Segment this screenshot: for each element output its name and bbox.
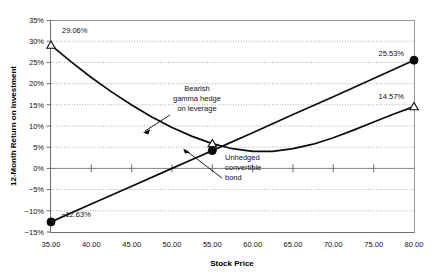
y-axis-title: 12-Month Return on Investment — [9, 66, 18, 186]
y-tick-label: 20% — [29, 79, 44, 88]
data-label-25-53: 25.53% — [379, 49, 405, 58]
chart-background — [0, 0, 436, 278]
x-tick-label: 80.00 — [405, 240, 424, 249]
y-tick-label: 35% — [29, 16, 44, 25]
data-point-marker-circle — [208, 147, 216, 155]
x-tick-label: 65.00 — [284, 240, 303, 249]
annotation-line: convertible — [225, 163, 261, 172]
annotation-line: on leverage — [177, 104, 216, 113]
y-tick-label: −5% — [29, 185, 45, 194]
data-point-marker-circle — [47, 218, 55, 226]
data-point-marker-circle — [410, 56, 418, 64]
x-tick-label: 75.00 — [364, 240, 383, 249]
annotation-line: gamma hedge — [173, 94, 221, 103]
x-tick-label: 40.00 — [82, 240, 101, 249]
y-tick-label: 30% — [29, 37, 44, 46]
x-tick-label: 50.00 — [163, 240, 182, 249]
y-tick-label: 15% — [29, 101, 44, 110]
data-label-29-06: 29.06% — [62, 26, 88, 35]
annotation-line: Unhedged — [225, 153, 260, 162]
x-axis-title: Stock Price — [210, 259, 254, 268]
annotation-line: Bearish — [184, 84, 209, 93]
x-tick-label: 60.00 — [243, 240, 262, 249]
data-label-neg-12-63: −12.63% — [61, 210, 91, 219]
data-label-14-57: 14.57% — [379, 92, 405, 101]
annotation-line: bond — [225, 173, 242, 182]
y-tick-label: 5% — [33, 143, 44, 152]
y-tick-label: −10% — [25, 207, 45, 216]
chart-container: 35% 30% 25% 20% 15% 10% 5% 0% −5% −10% −… — [0, 0, 436, 278]
x-tick-label: 70.00 — [324, 240, 343, 249]
x-tick-label: 35.00 — [42, 240, 61, 249]
y-tick-label: 10% — [29, 122, 44, 131]
roi-vs-stock-price-chart: 35% 30% 25% 20% 15% 10% 5% 0% −5% −10% −… — [0, 0, 436, 278]
x-tick-label: 45.00 — [122, 240, 141, 249]
y-tick-label: 25% — [29, 58, 44, 67]
y-tick-label: 0% — [33, 164, 44, 173]
x-tick-label: 55.00 — [203, 240, 222, 249]
y-tick-label: −15% — [25, 228, 45, 237]
